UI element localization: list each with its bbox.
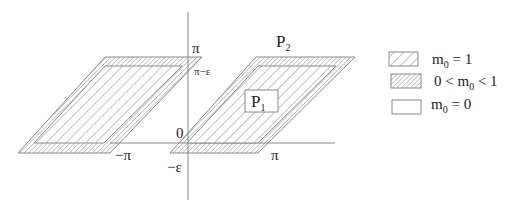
svg-text:m0 = 0: m0 = 0 [431,96,471,115]
p1-label-box: P1 [245,90,278,113]
coarse-hatch-swatch [389,52,418,66]
tick-zero: 0 [176,125,184,141]
left-inner-hatch [34,66,182,143]
svg-text:m0 = 1: m0 = 1 [432,51,472,70]
p2-label: P2 [276,32,290,53]
empty-swatch [392,100,421,114]
tick-pi-right: π [271,147,279,163]
tick-pi-top: π [192,40,200,56]
tick-neg-pi: −π [115,147,131,163]
tick-neg-eps: −ε [167,159,182,175]
left-parallelogram [18,57,202,153]
legend-item-m0-equals-1: m0 = 1 [389,51,472,70]
legend-item-m0-equals-0: m0 = 0 [392,96,471,115]
fine-hatch-swatch [391,74,421,88]
legend-item-m0-between: 0 < m0 < 1 [391,73,498,92]
svg-text:0 < m0 < 1: 0 < m0 < 1 [434,73,498,92]
periodic-domain-diagram: P1 P2 π π−ε 0 −π −ε π m0 = 1 0 < m0 < 1 … [0,0,520,209]
tick-pi-minus-eps: π−ε [194,65,211,77]
legend: m0 = 1 0 < m0 < 1 m0 = 0 [389,51,498,115]
